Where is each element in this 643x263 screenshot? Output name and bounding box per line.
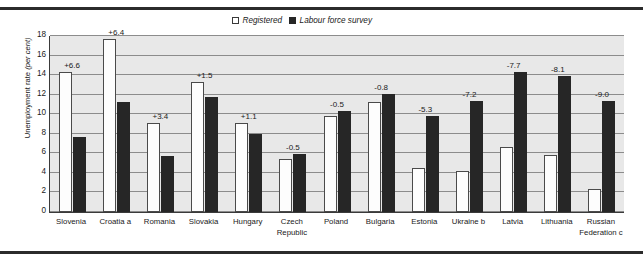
bar-registered (456, 171, 469, 212)
x-axis-category-label: Ukraine b (446, 216, 490, 238)
x-axis-category-label: Russian Federation c (579, 216, 623, 238)
bar-difference-label: +6.4 (108, 29, 124, 37)
bar-difference-label: -9.0 (595, 91, 609, 99)
legend-label-labour-force-survey: Labour force survey (300, 17, 372, 25)
bar-group: +6.4 (94, 36, 138, 212)
bar-group: +6.6 (50, 36, 94, 212)
y-axis-tick-label: 10 (37, 109, 46, 117)
x-axis-labels: SloveniaCroatia aRomaniaSlovakiaHungaryC… (49, 216, 623, 238)
bar-difference-label: -7.7 (507, 62, 521, 70)
y-axis-tick-label: 18 (37, 31, 46, 39)
bar-labour-force-survey (426, 116, 439, 212)
y-axis-tick-label: 16 (37, 50, 46, 58)
x-axis-category-label: Slovenia (49, 216, 93, 238)
bar-group: +3.4 (138, 36, 182, 212)
bar-registered (103, 39, 116, 212)
y-axis-tick-label: 6 (41, 148, 46, 156)
bar-labour-force-survey (73, 137, 86, 212)
x-axis-category-label: Hungary (226, 216, 270, 238)
bar-difference-label: +6.6 (64, 62, 80, 70)
bar-group: -9.0 (580, 36, 624, 212)
bar-labour-force-survey (602, 101, 615, 212)
bar-difference-label: +1.5 (197, 72, 213, 80)
bar-group: -0.5 (315, 36, 359, 212)
bar-group: -7.7 (492, 36, 536, 212)
x-axis-category-label: Poland (314, 216, 358, 238)
x-axis-category-label: Slovakia (181, 216, 225, 238)
bar-difference-label: +3.4 (152, 113, 168, 121)
bar-groups: +6.6+6.4+3.4+1.5+1.1-0.5-0.5-0.8-5.3-7.2… (50, 36, 624, 212)
bar-difference-label: -0.5 (286, 144, 300, 152)
bar-labour-force-survey (382, 94, 395, 212)
y-axis-tick-label: 2 (41, 187, 46, 195)
bar-labour-force-survey (470, 101, 483, 212)
legend-label-registered: Registered (243, 17, 283, 25)
bar-registered (191, 82, 204, 212)
bar-registered (147, 123, 160, 212)
x-axis-category-label: Bulgaria (358, 216, 402, 238)
bottom-rule (0, 251, 643, 254)
bar-registered (544, 155, 557, 212)
bar-group: +1.1 (227, 36, 271, 212)
bar-labour-force-survey (293, 154, 306, 212)
y-axis-tick-label: 14 (37, 70, 46, 78)
x-axis-category-label: Lithuania (535, 216, 579, 238)
legend-item-labour-force-survey: Labour force survey (289, 17, 372, 25)
bar-group: -7.2 (447, 36, 491, 212)
y-axis-tick-label: 8 (41, 129, 46, 137)
bar-difference-label: -8.1 (551, 66, 565, 74)
y-axis-title-plain: Unemployment rate (23, 70, 32, 138)
chart-figure: Registered Labour force survey Unemploym… (0, 0, 643, 263)
chart-legend: Registered Labour force survey (232, 15, 372, 27)
bar-registered (59, 72, 72, 212)
bar-difference-label: -0.8 (374, 84, 388, 92)
bar-labour-force-survey (514, 72, 527, 212)
bar-group: -8.1 (536, 36, 580, 212)
bar-labour-force-survey (558, 76, 571, 212)
x-axis-category-label: Romania (137, 216, 181, 238)
bar-registered (500, 147, 513, 212)
legend-swatch-registered (232, 17, 239, 24)
legend-item-registered: Registered (232, 17, 282, 25)
bar-labour-force-survey (161, 156, 174, 212)
x-axis-category-label: Czech Republic (270, 216, 314, 238)
bar-difference-label: -5.3 (418, 106, 432, 114)
bar-difference-label: -7.2 (463, 91, 477, 99)
bar-group: +1.5 (182, 36, 226, 212)
y-axis-tick-label: 4 (41, 168, 46, 176)
bar-group: -0.8 (359, 36, 403, 212)
plot-area: 024681012141618 +6.6+6.4+3.4+1.5+1.1-0.5… (49, 36, 624, 213)
y-axis-tick-label: 12 (37, 90, 46, 98)
top-rule (0, 7, 643, 10)
x-axis-category-label: Latvia (491, 216, 535, 238)
x-axis-category-label: Croatia a (93, 216, 137, 238)
bar-labour-force-survey (249, 134, 262, 212)
bar-labour-force-survey (117, 102, 130, 212)
bar-registered (412, 168, 425, 212)
y-axis-title: Unemployment rate (per cent) (24, 0, 32, 178)
bar-group: -5.3 (403, 36, 447, 212)
bar-difference-label: +1.1 (241, 113, 257, 121)
bar-registered (279, 159, 292, 212)
y-axis-tick-label: 0 (41, 207, 46, 215)
bar-labour-force-survey (338, 111, 351, 212)
bar-group: -0.5 (271, 36, 315, 212)
bar-registered (588, 189, 601, 212)
bar-labour-force-survey (205, 97, 218, 212)
bar-difference-label: -0.5 (330, 101, 344, 109)
bar-registered (368, 102, 381, 212)
legend-swatch-labour-force-survey (289, 17, 296, 24)
y-axis-title-italic: (per cent) (23, 37, 32, 70)
x-axis-category-label: Estonia (402, 216, 446, 238)
bar-registered (235, 123, 248, 212)
bar-registered (324, 116, 337, 212)
